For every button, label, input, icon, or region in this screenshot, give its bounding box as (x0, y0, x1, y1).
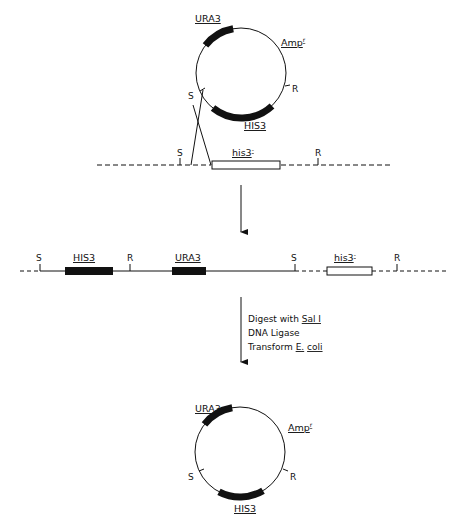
step-digest: Digest with Sal I (248, 314, 321, 324)
sali-site-label: S (177, 148, 183, 158)
ecori-site-label: R (315, 148, 321, 158)
ecori-site-label: R (290, 472, 296, 482)
plasmid-rescue-diagram: URA3 Ampr R S HIS3 S R his3- S R S (0, 0, 466, 527)
ura3-label: URA3 (195, 13, 221, 24)
step-transform: Transform E. coli (247, 342, 323, 352)
sali-site-label: S (188, 472, 194, 482)
ura3-segment (206, 29, 234, 46)
rescued-plasmid: URA3 Ampr R S HIS3 (188, 403, 313, 514)
sali-label-left: S (36, 253, 42, 263)
chromosome-locus: S R his3- (97, 146, 392, 169)
top-plasmid: URA3 Ampr R S HIS3 (188, 13, 306, 165)
step-ligase: DNA Ligase (248, 328, 300, 338)
his3-wt-block (65, 267, 113, 275)
amp-label: Ampr (288, 421, 313, 433)
his3-mutant-box (212, 161, 280, 169)
recombination-line-1 (191, 90, 203, 165)
ura3-block (172, 267, 206, 275)
diagram-canvas: URA3 Ampr R S HIS3 S R his3- S R S (0, 0, 466, 527)
sali-label-right: S (291, 253, 297, 263)
ecori-site-tick (283, 469, 288, 471)
ura3-label: URA3 (195, 403, 221, 414)
his3-label: HIS3 (244, 120, 266, 131)
integrated-locus: S R S R HIS3 URA3 his3- (20, 251, 447, 275)
his3-wt-label: HIS3 (73, 252, 95, 263)
his3-segment (213, 106, 272, 118)
procedure-steps: Digest with Sal I DNA Ligase Transform E… (247, 314, 323, 352)
ecori-label-right: R (394, 253, 400, 263)
his3-mutant-label: his3- (334, 251, 356, 263)
his3-segment (219, 491, 263, 497)
ura3-label: URA3 (175, 252, 201, 263)
ecori-label-left: R (127, 253, 133, 263)
sali-site-label: S (188, 91, 194, 101)
his3-mutant-label: his3- (232, 146, 254, 158)
his3-mutant-box (327, 267, 372, 275)
ecori-site-label: R (292, 84, 298, 94)
ecori-site-tick (285, 85, 290, 86)
amp-label: Ampr (281, 36, 306, 48)
his3-label: HIS3 (234, 503, 256, 514)
sali-site-tick (199, 469, 204, 471)
